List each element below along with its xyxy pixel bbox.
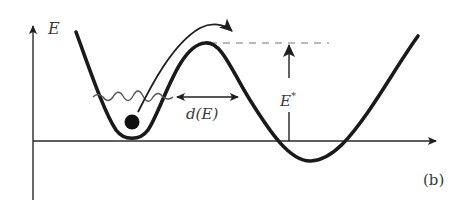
y-axis-label: E [47, 19, 60, 38]
barrier-height-label: E* [279, 90, 296, 110]
barrier-height-label-base: E [279, 92, 291, 110]
barrier-height-label-sup: * [291, 90, 296, 101]
particle [125, 115, 140, 130]
panel-label: (b) [423, 171, 444, 189]
energy-landscape-diagram: E d(E) E* (b) [0, 0, 467, 202]
distance-label: d(E) [186, 105, 218, 123]
